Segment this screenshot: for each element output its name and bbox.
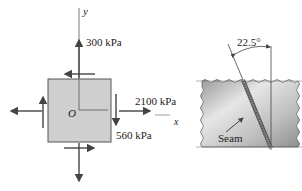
plate [201,80,300,148]
element-square [48,79,111,142]
angle-label: 22.5° [237,37,261,48]
plate-figure [196,44,302,150]
y-axis-label: y [83,6,88,17]
origin-label: O [68,108,76,119]
seam-label: Seam [218,133,242,144]
x-axis-label: x [174,117,178,127]
normal-stress-x-label: 2100 kPa [135,96,176,107]
normal-stress-y-label: 300 kPa [86,37,122,48]
seam-extension-line [228,44,243,80]
shear-stress-label: 560 kPa [116,130,152,141]
